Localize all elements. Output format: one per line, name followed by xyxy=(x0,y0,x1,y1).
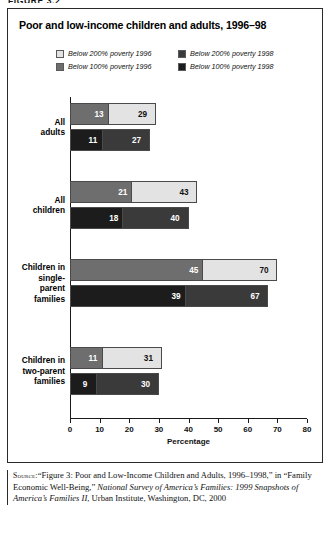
x-axis-tick xyxy=(218,419,219,423)
x-axis-tick xyxy=(277,419,278,423)
source-label: Source: xyxy=(13,471,38,480)
chart-legend: Below 200% poverty 1996 Below 200% pover… xyxy=(56,47,306,73)
bar-row: 4018 xyxy=(70,207,307,229)
legend-label: Below 100% poverty 1996 xyxy=(68,62,152,71)
legend-item-below-100-1998: Below 100% poverty 1998 xyxy=(178,60,300,73)
bar-group: Allchildren43214018 xyxy=(70,181,307,229)
legend-item-below-200-1996: Below 200% poverty 1996 xyxy=(56,47,174,60)
x-axis-title: Percentage xyxy=(70,437,307,446)
category-label: Children insingle-parentfamilies xyxy=(10,262,70,304)
bar-value-200: 40 xyxy=(171,214,180,223)
legend-label: Below 200% poverty 1996 xyxy=(68,49,152,58)
bar-group: Alladults29132711 xyxy=(70,103,307,151)
bar-value-100: 21 xyxy=(118,188,127,197)
bar-value-100: 45 xyxy=(189,266,198,275)
bar-value-100: 11 xyxy=(89,136,98,145)
x-axis-tick-label: 50 xyxy=(214,425,223,434)
x-axis-tick xyxy=(129,419,130,423)
x-axis-tick-label: 30 xyxy=(154,425,163,434)
legend-label: Below 100% poverty 1998 xyxy=(190,62,274,71)
x-axis-tick xyxy=(100,419,101,423)
legend-swatch-icon xyxy=(178,50,186,58)
bar-value-200: 27 xyxy=(132,136,141,145)
x-axis-tick xyxy=(248,419,249,423)
chart-title: Poor and low-income children and adults,… xyxy=(19,19,266,31)
x-axis-tick-label: 70 xyxy=(273,425,282,434)
bar-value-100: 9 xyxy=(83,380,88,389)
bar-row: 3111 xyxy=(70,347,307,369)
x-axis-tick-label: 60 xyxy=(243,425,252,434)
legend-item-below-100-1996: Below 100% poverty 1996 xyxy=(56,60,174,73)
chart-frame: Poor and low-income children and adults,… xyxy=(7,8,323,463)
bar-value-100: 39 xyxy=(172,292,181,301)
bar-below-100-poverty[interactable] xyxy=(70,259,203,281)
x-axis-tick-label: 40 xyxy=(184,425,193,434)
bar-value-100: 13 xyxy=(95,110,104,119)
x-axis-tick xyxy=(159,419,160,423)
bar-group: Children intwo-parentfamilies3111309 xyxy=(70,347,307,395)
category-label: Children intwo-parentfamilies xyxy=(10,355,70,387)
bar-value-200: 31 xyxy=(144,354,153,363)
bar-row: 7045 xyxy=(70,259,307,281)
source-text-2: , Urban Institute, Washington, DC, 2000 xyxy=(87,493,226,503)
legend-item-below-200-1998: Below 200% poverty 1998 xyxy=(178,47,300,60)
bar-row: 2711 xyxy=(70,129,307,151)
legend-label: Below 200% poverty 1998 xyxy=(190,49,274,58)
legend-swatch-icon xyxy=(56,63,64,71)
bar-row: 309 xyxy=(70,373,307,395)
bar-value-200: 30 xyxy=(141,380,150,389)
figure-page: FIGURE 3.2 Poor and low-income children … xyxy=(0,0,330,542)
bar-value-200: 29 xyxy=(138,110,147,119)
figure-caption: FIGURE 3.2 xyxy=(8,0,60,3)
category-label: Alladults xyxy=(10,117,70,138)
bar-value-200: 43 xyxy=(179,188,188,197)
legend-swatch-icon xyxy=(178,63,186,71)
source-note: Source:“Figure 3: Poor and Low-Income Ch… xyxy=(7,470,323,505)
x-axis-tick xyxy=(189,419,190,423)
plot-area: Alladults29132711Allchildren43214018Chil… xyxy=(70,97,307,419)
x-axis-tick-label: 0 xyxy=(68,425,72,434)
x-axis-tick-label: 20 xyxy=(125,425,134,434)
bar-value-100: 18 xyxy=(109,214,118,223)
bar-row: 6739 xyxy=(70,285,307,307)
bar-value-200: 67 xyxy=(250,292,259,301)
x-axis-tick xyxy=(307,419,308,423)
bar-below-100-poverty[interactable] xyxy=(70,285,186,307)
x-axis-tick-label: 80 xyxy=(303,425,312,434)
bar-value-100: 11 xyxy=(89,354,98,363)
bar-group: Children insingle-parentfamilies70456739 xyxy=(70,259,307,307)
bar-below-100-poverty[interactable] xyxy=(70,129,103,151)
bar-value-200: 70 xyxy=(259,266,268,275)
category-label: Allchildren xyxy=(10,195,70,216)
x-axis-tick xyxy=(70,419,71,423)
bar-row: 2913 xyxy=(70,103,307,125)
bar-below-100-poverty[interactable] xyxy=(70,347,103,369)
bar-row: 4321 xyxy=(70,181,307,203)
legend-swatch-icon xyxy=(56,50,64,58)
x-axis-tick-label: 10 xyxy=(95,425,104,434)
